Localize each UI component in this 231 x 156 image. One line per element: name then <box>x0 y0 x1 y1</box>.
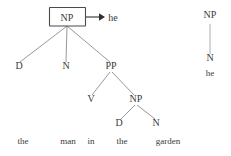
root-node-label: NP <box>61 12 74 23</box>
pronominalization-arrow <box>86 13 105 21</box>
inner-np-branches <box>121 105 155 119</box>
word-the-1: the <box>18 136 29 146</box>
word-garden: garden <box>156 136 181 146</box>
arrow-target-word: he <box>108 12 118 23</box>
tree-diagram-svg: NP he D N PP V NP D N the man in the gar… <box>0 0 231 156</box>
branch-root-to-n <box>66 26 67 62</box>
node-pp-level2: PP <box>105 60 117 71</box>
word-the-2: the <box>117 136 128 146</box>
pp-branches <box>92 72 134 95</box>
side-tree-node-n: N <box>206 52 213 63</box>
branch-root-to-pp <box>67 26 110 62</box>
word-in: in <box>87 136 95 146</box>
arrow-head-icon <box>99 13 105 21</box>
branch-root-to-d <box>20 26 67 62</box>
side-tree: NP N he <box>204 9 217 78</box>
node-d-level4: D <box>115 117 122 128</box>
root-branches <box>20 26 110 62</box>
node-n-level2: N <box>62 60 69 71</box>
branch-pp-to-v <box>92 72 110 95</box>
tree-diagram-canvas: NP he D N PP V NP D N the man in the gar… <box>0 0 231 156</box>
node-n-level4: N <box>152 117 159 128</box>
side-tree-word-he: he <box>206 68 215 78</box>
node-v-level3: V <box>87 93 95 104</box>
word-man: man <box>60 136 76 146</box>
branch-pp-to-np <box>112 72 134 95</box>
node-d-level2: D <box>15 60 22 71</box>
branch-np-to-d <box>121 105 135 119</box>
node-np-level3: NP <box>130 93 143 104</box>
side-tree-node-np: NP <box>204 9 217 20</box>
